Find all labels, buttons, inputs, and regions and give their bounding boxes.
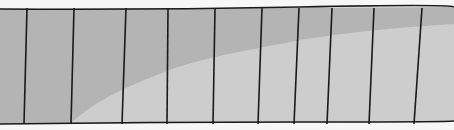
divider-line-4 bbox=[167, 8, 168, 124]
segmented-strip-diagram bbox=[0, 0, 454, 130]
diagram-canvas bbox=[0, 0, 454, 130]
